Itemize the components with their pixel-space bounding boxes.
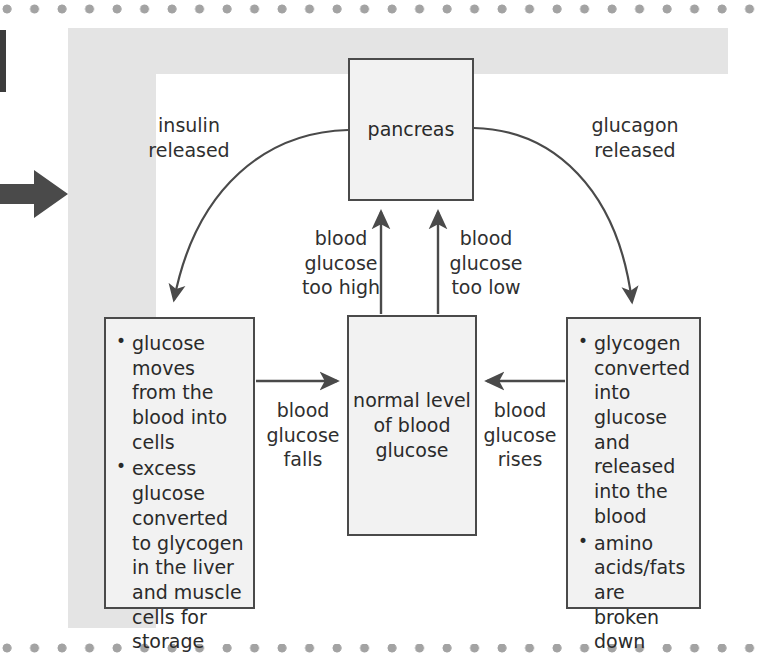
glucagon-effects-list: glycogen converted into glucose and rele… <box>568 319 699 607</box>
list-item: glycogen converted into glucose and rele… <box>578 331 691 529</box>
edge-label-insulin-released: insulin released <box>124 113 254 162</box>
edge-label-glucose-falls: blood glucose falls <box>257 398 349 472</box>
insulin-effects-list: glucose moves from the blood into cells … <box>106 319 253 607</box>
node-pancreas-label: pancreas <box>350 60 472 199</box>
edge-label-glucose-too-high: blood glucose too high <box>295 226 387 300</box>
node-pancreas[interactable]: pancreas <box>348 58 474 201</box>
edge-label-glucagon-released: glucagon released <box>562 113 708 162</box>
list-item: glucose moves from the blood into cells <box>116 331 245 454</box>
page-root: pancreas normal level of blood glucose g… <box>0 0 761 657</box>
list-item: excess glucose converted to glycogen in … <box>116 456 245 654</box>
edge-label-glucose-rises: blood glucose rises <box>474 398 566 472</box>
node-normal-blood-glucose[interactable]: normal level of blood glucose <box>347 315 477 536</box>
node-glucagon-effects[interactable]: glycogen converted into glucose and rele… <box>566 317 701 609</box>
node-insulin-effects[interactable]: glucose moves from the blood into cells … <box>104 317 255 609</box>
edge-label-glucose-too-low: blood glucose too low <box>440 226 532 300</box>
list-item: amino acids/fats are broken down <box>578 531 691 654</box>
node-normal-blood-glucose-label: normal level of blood glucose <box>349 317 475 534</box>
